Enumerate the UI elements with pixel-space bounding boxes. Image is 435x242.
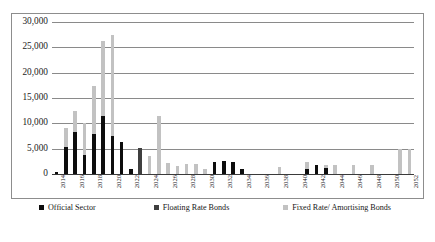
y-axis-tick-label: 25,000: [2, 42, 48, 51]
bar-segment: [315, 165, 319, 174]
y-axis-tick-label: 10,000: [2, 118, 48, 127]
bar-segment: [55, 172, 59, 174]
legend-swatch-icon: [154, 205, 159, 210]
bar-segment: [176, 166, 180, 174]
x-axis-tick-label: 2024: [152, 175, 159, 188]
bar-column: [305, 22, 309, 174]
chart-figure: 05,00010,00015,00020,00025,00030,000 201…: [0, 0, 435, 242]
x-axis-tick-label: 2048: [375, 175, 382, 188]
bar-column: [138, 22, 142, 174]
bar-segment: [305, 169, 309, 174]
y-axis-tick-label: 20,000: [2, 68, 48, 77]
legend-label: Fixed Rate/ Amortising Bonds: [292, 203, 391, 212]
bar-column: [148, 22, 152, 174]
legend-item: Floating Rate Bonds: [154, 203, 230, 212]
bar-column: [352, 22, 356, 174]
bar-segment: [73, 111, 77, 132]
bar-column: [343, 22, 347, 174]
x-axis-tick-label: 2034: [245, 175, 252, 188]
x-axis-tick-label: 2052: [412, 175, 419, 188]
bar-segment: [83, 123, 87, 155]
x-axis-tick-label: 2044: [338, 175, 345, 188]
x-axis-tick-label: 2014: [59, 175, 66, 188]
bar-column: [101, 22, 105, 174]
bar-column: [111, 22, 115, 174]
bar-column: [361, 22, 365, 174]
bar-segment: [83, 155, 87, 174]
bar-segment: [352, 165, 356, 174]
x-axis-tick-label: 2050: [393, 175, 400, 188]
bar-segment: [111, 136, 115, 174]
bar-segment: [138, 148, 142, 174]
bar-column: [389, 22, 393, 174]
legend-swatch-icon: [283, 205, 288, 210]
bar-segment: [64, 128, 68, 147]
legend-swatch-icon: [39, 205, 44, 210]
legend-label: Official Sector: [48, 203, 96, 212]
x-axis-tick-label: 2026: [171, 175, 178, 188]
bar-segment: [92, 134, 96, 174]
bar-segment: [398, 149, 402, 174]
bar-segment: [101, 41, 105, 116]
x-axis-tick-label: 2030: [208, 175, 215, 188]
x-axis-tick-label: 2016: [78, 175, 85, 188]
bar-segment: [231, 162, 235, 174]
x-axis-tick-label: 2022: [133, 175, 140, 188]
y-axis-labels: 05,00010,00015,00020,00025,00030,000: [0, 22, 48, 174]
y-axis-tick-label: 30,000: [2, 17, 48, 26]
bar-column: [231, 22, 235, 174]
y-axis-tick-label: 15,000: [2, 93, 48, 102]
bar-column: [315, 22, 319, 174]
x-axis-tick-label: 2046: [356, 175, 363, 188]
bar-segment: [101, 116, 105, 174]
bar-column: [278, 22, 282, 174]
legend-item: Fixed Rate/ Amortising Bonds: [283, 203, 391, 212]
bar-column: [259, 22, 263, 174]
bar-column: [83, 22, 87, 174]
bar-segment: [240, 169, 244, 174]
x-axis-tick-label: 2042: [319, 175, 326, 188]
bar-column: [296, 22, 300, 174]
x-axis-tick-label: 2036: [263, 175, 270, 188]
bar-segment: [73, 132, 77, 174]
bar-segment: [222, 161, 226, 174]
bar-segment: [120, 142, 124, 174]
bar-column: [64, 22, 68, 174]
bar-column: [176, 22, 180, 174]
bar-column: [92, 22, 96, 174]
y-axis-tick-label: 5,000: [2, 144, 48, 153]
bar-column: [380, 22, 384, 174]
x-axis-tick-label: 2018: [96, 175, 103, 188]
bar-column: [370, 22, 374, 174]
bar-column: [120, 22, 124, 174]
x-axis-tick-label: 2040: [301, 175, 308, 188]
bar-segment: [92, 86, 96, 134]
bar-segment: [194, 164, 198, 174]
bar-column: [222, 22, 226, 174]
bar-column: [55, 22, 59, 174]
bar-segment: [111, 35, 115, 136]
bar-column: [287, 22, 291, 174]
bar-segment: [157, 116, 161, 174]
bar-column: [324, 22, 328, 174]
bar-column: [157, 22, 161, 174]
chart-legend: Official SectorFloating Rate BondsFixed …: [11, 203, 424, 219]
bar-column: [194, 22, 198, 174]
bar-segment: [324, 165, 328, 169]
bar-column: [268, 22, 272, 174]
plot-area: [52, 22, 414, 174]
x-axis-labels: 2014201620182020202220242026202820302032…: [52, 175, 414, 201]
bar-column: [185, 22, 189, 174]
bar-column: [203, 22, 207, 174]
bar-segment: [203, 169, 207, 174]
x-axis-tick-label: 2028: [189, 175, 196, 188]
bar-segment: [278, 167, 282, 174]
bar-column: [240, 22, 244, 174]
bar-segment: [129, 169, 133, 174]
bar-column: [398, 22, 402, 174]
bar-column: [129, 22, 133, 174]
bar-segment: [185, 164, 189, 174]
bar-column: [213, 22, 217, 174]
x-axis-tick-label: 2032: [226, 175, 233, 188]
bar-segment: [408, 149, 412, 174]
